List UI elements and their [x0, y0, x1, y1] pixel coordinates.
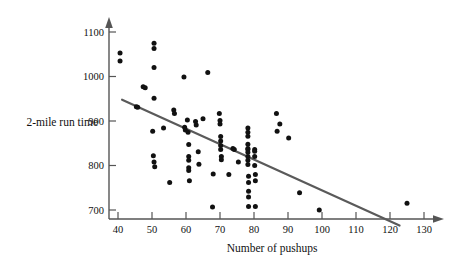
data-point — [252, 163, 257, 168]
data-point — [246, 204, 251, 209]
data-point — [246, 174, 251, 179]
x-axis-arrow-icon — [433, 215, 444, 223]
data-point — [118, 50, 123, 55]
plot-canvas: 70080090010001100 4050607080901001101201… — [0, 0, 450, 261]
data-point — [297, 190, 302, 195]
data-point — [152, 41, 157, 46]
x-tick-label: 40 — [113, 224, 124, 235]
x-tick-label: 80 — [249, 224, 260, 235]
data-point — [186, 130, 191, 135]
data-point — [245, 134, 250, 139]
data-point — [246, 195, 251, 200]
scatter-plot-figure: 70080090010001100 4050607080901001101201… — [0, 0, 450, 261]
data-point — [135, 105, 140, 110]
data-point — [186, 142, 191, 147]
data-point — [245, 142, 250, 147]
data-point — [186, 158, 191, 163]
x-tick-label: 120 — [382, 224, 398, 235]
data-point — [252, 154, 257, 159]
data-point — [181, 74, 186, 79]
data-point — [253, 178, 258, 183]
data-point — [218, 139, 223, 144]
x-tick-label: 60 — [181, 224, 192, 235]
data-point — [187, 178, 192, 183]
y-tick-label: 800 — [88, 160, 104, 171]
data-point — [161, 126, 166, 131]
data-point — [210, 204, 215, 209]
data-point — [217, 111, 222, 116]
y-tick-label: 700 — [88, 205, 104, 216]
data-point — [201, 116, 206, 121]
data-point — [275, 129, 280, 134]
data-point — [245, 158, 250, 163]
y-axis-arrow-icon — [105, 17, 113, 28]
data-point — [245, 162, 250, 167]
regression-line — [122, 100, 399, 226]
data-point — [246, 189, 251, 194]
data-point — [172, 111, 177, 116]
data-point — [277, 122, 282, 127]
data-point — [118, 58, 123, 63]
data-point — [152, 65, 157, 70]
x-tick-label: 130 — [416, 224, 432, 235]
data-point-group — [118, 41, 410, 213]
data-point — [152, 96, 157, 101]
data-point — [226, 172, 231, 177]
data-point — [253, 172, 258, 177]
data-point — [186, 168, 191, 173]
y-tick-marks — [109, 32, 116, 210]
x-axis-title: Number of pushups — [227, 242, 318, 255]
x-tick-label: 100 — [314, 224, 330, 235]
data-point — [405, 201, 410, 206]
data-point — [167, 180, 172, 185]
data-point — [245, 150, 250, 155]
data-point — [232, 147, 237, 152]
data-point — [317, 208, 322, 213]
y-tick-label: 1100 — [83, 27, 104, 38]
x-tick-labels: 405060708090100110120130 — [113, 224, 432, 235]
data-point — [253, 204, 258, 209]
data-point — [196, 162, 201, 167]
data-point — [219, 157, 224, 162]
data-point — [194, 123, 199, 128]
data-point — [150, 129, 155, 134]
data-point — [196, 149, 201, 154]
data-point — [274, 111, 279, 116]
data-point — [143, 85, 148, 90]
data-point — [218, 134, 223, 139]
y-tick-label: 1000 — [83, 71, 104, 82]
trendline-group — [122, 100, 399, 226]
data-point — [218, 122, 223, 127]
data-point — [286, 135, 291, 140]
x-tick-label: 50 — [147, 224, 158, 235]
data-point — [152, 164, 157, 169]
data-point — [152, 46, 157, 51]
data-point — [218, 147, 223, 152]
x-tick-label: 90 — [283, 224, 294, 235]
data-point — [205, 70, 210, 75]
data-point — [236, 159, 241, 164]
x-tick-label: 70 — [215, 224, 226, 235]
data-point — [151, 153, 156, 158]
y-axis-title: 2-mile run time — [26, 116, 98, 128]
data-point — [211, 171, 216, 176]
data-point — [152, 159, 157, 164]
data-point — [185, 118, 190, 123]
x-tick-label: 110 — [348, 224, 363, 235]
data-point — [246, 180, 251, 185]
data-point — [252, 149, 257, 154]
